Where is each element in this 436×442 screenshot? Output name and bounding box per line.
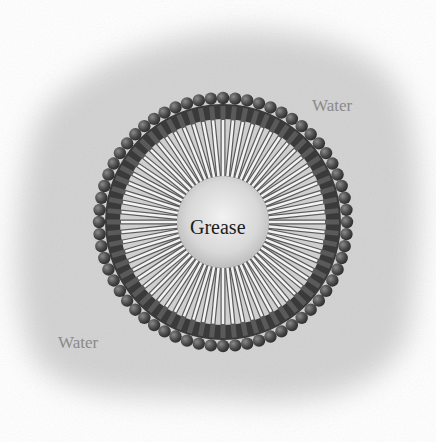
soap-head — [326, 274, 338, 286]
soap-head — [253, 334, 265, 346]
soap-head — [181, 97, 193, 109]
soap-head — [253, 97, 265, 109]
soap-head — [217, 340, 229, 352]
soap-head — [95, 192, 107, 204]
soap-head — [217, 92, 229, 104]
soap-head — [241, 94, 253, 106]
soap-head — [331, 263, 343, 275]
soap-head — [264, 330, 276, 342]
soap-head — [193, 94, 205, 106]
soap-head — [93, 216, 105, 228]
water-label-bottom: Water — [58, 333, 98, 353]
soap-head — [335, 180, 347, 192]
soap-head — [98, 180, 110, 192]
soap-head — [275, 325, 287, 337]
soap-head — [264, 101, 276, 113]
soap-head — [205, 92, 217, 104]
soap-head — [205, 339, 217, 351]
soap-head — [148, 113, 160, 125]
soap-head — [338, 192, 350, 204]
micelle-diagram: Water Water Grease — [0, 0, 436, 442]
soap-head — [169, 330, 181, 342]
soap-head — [93, 228, 105, 240]
soap-head — [229, 339, 241, 351]
soap-head — [95, 240, 107, 252]
soap-head — [286, 319, 298, 331]
soap-head — [340, 228, 352, 240]
soap-head — [275, 106, 287, 118]
soap-head — [335, 252, 347, 264]
soap-head — [320, 147, 332, 159]
soap-head — [158, 325, 170, 337]
soap-head — [341, 216, 353, 228]
water-label-top: Water — [312, 96, 352, 116]
soap-head — [241, 337, 253, 349]
soap-head — [181, 334, 193, 346]
soap-head — [93, 204, 105, 216]
soap-head — [102, 168, 114, 180]
soap-head — [98, 252, 110, 264]
soap-head — [338, 240, 350, 252]
soap-head — [193, 337, 205, 349]
soap-head — [326, 157, 338, 169]
soap-head — [114, 285, 126, 297]
soap-head — [331, 168, 343, 180]
soap-head — [158, 106, 170, 118]
soap-head — [169, 101, 181, 113]
grease-label: Grease — [190, 216, 246, 239]
soap-head — [107, 157, 119, 169]
soap-head — [107, 274, 119, 286]
soap-head — [102, 263, 114, 275]
soap-head — [229, 92, 241, 104]
soap-head — [340, 204, 352, 216]
